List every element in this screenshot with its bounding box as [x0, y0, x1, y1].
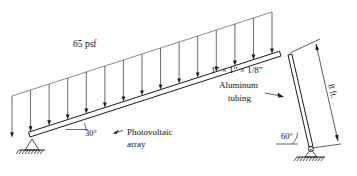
distributed-load-label: 65 psf	[73, 39, 97, 49]
tubing-type-label: tubing	[228, 93, 252, 103]
post-angle-label: 60°	[281, 131, 293, 141]
dimension-extension-bottom	[312, 144, 341, 148]
right-ground-hatching	[294, 157, 324, 161]
right-pin-support-triangle	[305, 149, 317, 157]
incline-angle-group: 30°	[66, 123, 97, 138]
pv-array-label-line1: Photovoltaic	[127, 127, 173, 137]
tubing-callout: 1” × 1” × 1/8” Aluminum tubing	[211, 65, 284, 103]
post-height-dimension: 8 ft.	[290, 39, 341, 148]
left-support-group	[16, 139, 45, 154]
structural-diagram: 65 psf 30°	[0, 0, 357, 176]
right-support-group	[294, 146, 325, 161]
dimension-arrowhead-bottom	[335, 135, 339, 141]
pv-array-callout: Photovoltaic array	[113, 127, 173, 149]
tubing-spec-label: 1” × 1” × 1/8”	[211, 65, 263, 75]
tubing-material-label: Aluminum	[219, 80, 258, 90]
tubing-leader-arrowhead	[278, 92, 284, 97]
dimension-extension-top	[290, 39, 320, 53]
pv-array-leader-arrowhead	[113, 130, 119, 134]
pv-array-label-line2: array	[127, 139, 146, 149]
incline-angle-label: 30°	[85, 128, 97, 138]
left-pin-support-triangle	[25, 139, 39, 150]
diagram-canvas: 65 psf 30°	[0, 0, 357, 176]
left-ground-hatching	[16, 150, 43, 154]
dimension-arrowhead-top	[315, 44, 319, 50]
post-angle-group: 60°	[276, 131, 298, 144]
